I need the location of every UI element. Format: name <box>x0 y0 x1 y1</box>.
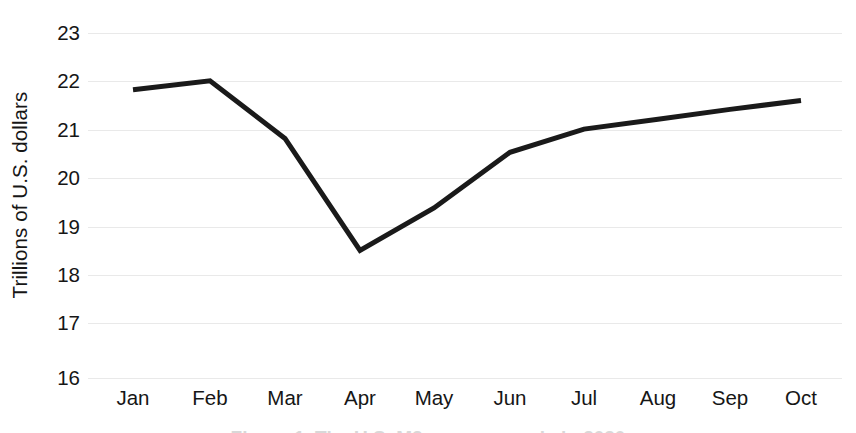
gridline <box>88 323 842 324</box>
plot-area: 23 22 21 20 19 18 17 16 Jan Feb Mar Apr … <box>0 0 856 433</box>
gridline <box>88 178 842 179</box>
x-axis-tick-label: May <box>396 388 472 409</box>
gridline <box>88 33 842 34</box>
chart-figure: Trillions of U.S. dollars 23 22 21 20 19… <box>0 0 856 433</box>
gridline <box>88 227 842 228</box>
x-axis-tick-label: Jan <box>95 388 171 409</box>
y-axis-tick-label: 20 <box>46 168 80 189</box>
y-axis-tick-label: 16 <box>46 368 80 389</box>
x-axis-tick-label: Sep <box>692 388 768 409</box>
figure-caption-text: Figure 1. The U.S. M2 money supply in 20… <box>0 428 856 433</box>
x-axis-tick-label: Mar <box>247 388 323 409</box>
y-axis-tick-label: 21 <box>46 120 80 141</box>
x-axis-tick-label: Jul <box>546 388 622 409</box>
y-axis-tick-label: 17 <box>46 313 80 334</box>
gridline <box>88 130 842 131</box>
x-axis-tick-label: Jun <box>472 388 548 409</box>
y-axis-tick-label: 19 <box>46 217 80 238</box>
y-axis-tick-label: 22 <box>46 71 80 92</box>
x-axis-tick-label: Oct <box>763 388 839 409</box>
x-axis-tick-label: Feb <box>172 388 248 409</box>
gridline <box>88 275 842 276</box>
y-axis-tick-label: 18 <box>46 265 80 286</box>
figure-caption-clipped: Figure 1. The U.S. M2 money supply in 20… <box>0 428 856 433</box>
gridline <box>88 81 842 82</box>
x-axis-tick-label: Apr <box>322 388 398 409</box>
series-line-m2 <box>133 81 801 251</box>
gridline <box>88 378 842 379</box>
y-axis-tick-label: 23 <box>46 23 80 44</box>
series-line-chart <box>0 0 856 433</box>
x-axis-tick-label: Aug <box>620 388 696 409</box>
